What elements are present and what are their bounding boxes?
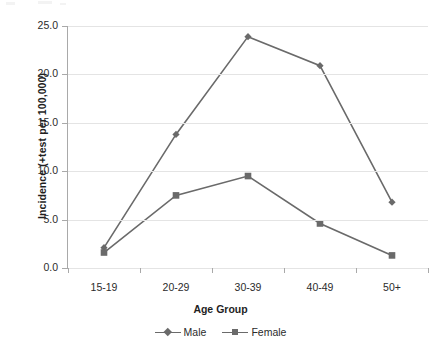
series-layer (68, 26, 428, 268)
y-axis-tick-label: 25.0 (18, 20, 58, 31)
data-point-square (101, 249, 108, 256)
x-axis-tick-mark (284, 268, 285, 273)
x-axis-tick-label: 40-49 (285, 281, 355, 293)
x-axis-tick-mark (68, 268, 69, 273)
scan-artifact (60, 3, 66, 5)
gridline (68, 220, 428, 221)
x-axis-tick-mark (140, 268, 141, 273)
data-point-diamond (316, 62, 323, 69)
y-axis-tick-label: 10.0 (18, 165, 58, 176)
chart-legend: MaleFemale (0, 326, 441, 338)
legend-marker-diamond-icon (155, 327, 181, 337)
gridline (68, 123, 428, 124)
y-axis-tick-label: 15.0 (18, 117, 58, 128)
y-axis-tick-label: 5.0 (18, 214, 58, 225)
series-line (104, 176, 392, 255)
y-axis-tick-mark (62, 220, 67, 221)
x-axis-tick-mark (356, 268, 357, 273)
data-point-square (245, 173, 252, 180)
y-axis-tick-mark (62, 74, 67, 75)
gridline (68, 268, 428, 269)
y-axis-tick-labels: 25.020.015.010.05.00.0 (14, 0, 58, 349)
y-axis-tick-mark (62, 268, 67, 269)
y-axis-tick-label: 20.0 (18, 68, 58, 79)
y-axis-tick-mark (62, 26, 67, 27)
legend-label: Male (184, 326, 207, 338)
series-line (104, 37, 392, 248)
legend-marker-square-icon (222, 327, 248, 337)
chart-figure: Incidence (+test per 100,000) 25.020.015… (0, 0, 441, 349)
x-axis-tick-mark (212, 268, 213, 273)
x-axis-tick-label: 50+ (357, 281, 427, 293)
x-axis-tick-label: 30-39 (213, 281, 283, 293)
data-point-diamond (388, 199, 395, 206)
data-point-square (389, 252, 396, 259)
legend-item-female[interactable]: Female (222, 326, 286, 338)
legend-item-male[interactable]: Male (155, 326, 207, 338)
legend-label: Female (251, 326, 286, 338)
x-axis-tick-label: 15-19 (69, 281, 139, 293)
data-point-square (173, 192, 180, 199)
y-axis-tick-label: 0.0 (18, 262, 58, 273)
plot-area (68, 26, 428, 268)
x-axis-tick-mark (428, 268, 429, 273)
data-point-square (317, 220, 324, 227)
series-female (101, 173, 396, 259)
x-axis-title: Age Group (0, 303, 441, 315)
y-axis-tick-mark (62, 171, 67, 172)
gridline (68, 74, 428, 75)
gridline (68, 26, 428, 27)
y-axis-tick-mark (62, 123, 67, 124)
series-male (100, 33, 395, 251)
gridline (68, 171, 428, 172)
x-axis-tick-label: 20-29 (141, 281, 211, 293)
